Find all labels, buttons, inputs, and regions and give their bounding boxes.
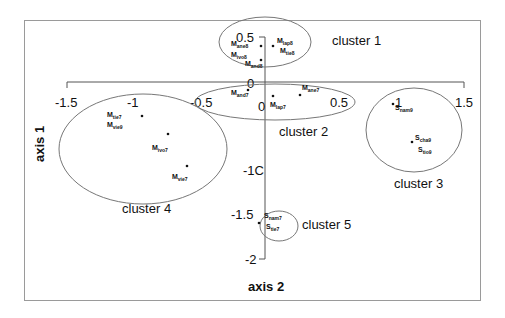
point-label: Stio9 <box>418 146 432 155</box>
point-label: Mand8 <box>245 60 263 69</box>
point-label: Mtie8 <box>280 47 295 56</box>
point-label: Snam7 <box>264 212 282 221</box>
y-tick-label: -2 <box>245 252 257 267</box>
point-label: Mtie7 <box>107 111 122 120</box>
cluster-1-label: cluster 1 <box>332 33 381 48</box>
point-label: Mlap7 <box>270 101 286 110</box>
cluster-4-ellipse <box>59 94 227 204</box>
point-label: Scha9 <box>415 134 431 143</box>
x-tick-label: 1.5 <box>455 95 473 110</box>
x-tick-label: 0.5 <box>330 95 348 110</box>
point-label: Mvie9 <box>107 121 123 130</box>
point-label: Mivo8 <box>231 51 247 60</box>
point-label: Mvie7 <box>172 173 188 182</box>
cluster-2-label: cluster 2 <box>279 124 328 139</box>
cluster-3-ellipse <box>366 88 462 172</box>
y-axis-title: axis 1 <box>32 126 47 162</box>
point-label: Mlap8 <box>277 37 293 46</box>
x-tick-label: -1.5 <box>55 95 77 110</box>
cluster-4-label: cluster 4 <box>122 201 171 216</box>
point-label: Stie7 <box>266 223 280 232</box>
point-label: Snam9 <box>395 104 413 113</box>
y-tick-label: -1C <box>243 163 264 178</box>
x-tick-label: 0 <box>258 99 265 114</box>
y-tick-label: -1.5 <box>231 207 253 222</box>
cluster-5-label: cluster 5 <box>302 217 351 232</box>
scatter-chart: -1.5 -1 -0.5 0 0.5 1 1.5 0.5 0 -1C -1.5 … <box>0 0 505 318</box>
cluster-3-label: cluster 3 <box>394 176 443 191</box>
data-points <box>141 45 414 225</box>
x-tick-label: -1 <box>127 95 139 110</box>
point-label: Mivo7 <box>152 144 168 153</box>
x-axis-title: axis 2 <box>248 279 284 294</box>
x-tick-label: -0.5 <box>190 95 212 110</box>
